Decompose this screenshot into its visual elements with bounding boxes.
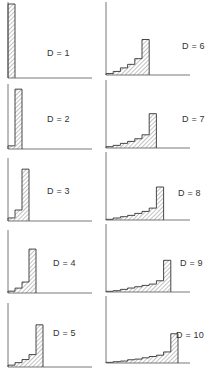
histogram-bar <box>142 358 149 363</box>
histogram-bar <box>142 40 149 76</box>
histogram-bar <box>164 352 171 363</box>
histogram-panel-8 <box>106 152 190 220</box>
histogram-bar <box>135 287 142 292</box>
histogram-bar <box>8 4 15 78</box>
histogram-bar <box>113 71 120 75</box>
histogram-bar <box>142 285 149 292</box>
histogram-bar <box>15 363 22 367</box>
panel-label-d7: D = 7 <box>182 114 205 124</box>
histogram-bar <box>135 139 142 148</box>
histogram-bar <box>135 59 142 75</box>
histogram-panel-7 <box>106 80 190 148</box>
histogram-bar <box>156 281 163 292</box>
histogram-bar <box>149 114 156 148</box>
histogram-bar <box>29 249 36 293</box>
histogram-bar <box>128 288 135 292</box>
histogram-bar <box>120 217 127 220</box>
panel-label-d5: D = 5 <box>53 328 76 338</box>
histogram-bar <box>22 360 29 367</box>
histogram-bar <box>149 284 156 292</box>
histogram-bar <box>29 355 36 367</box>
histogram-bar <box>142 135 149 148</box>
histogram-bar <box>15 288 22 293</box>
histogram-bar <box>142 211 149 220</box>
panel-label-d6: D = 6 <box>182 41 205 51</box>
histogram-bar <box>8 146 15 149</box>
histogram-bar <box>128 64 135 75</box>
histogram-panel-5 <box>8 303 92 367</box>
panel-label-d10: D = 10 <box>176 330 204 340</box>
histogram-bar <box>120 143 127 148</box>
histogram-bar <box>128 360 135 363</box>
histogram-bar <box>128 141 135 148</box>
panel-label-d9: D = 9 <box>180 258 203 268</box>
histogram-bar <box>149 208 156 220</box>
histogram-bar <box>135 213 142 220</box>
panel-label-d4: D = 4 <box>53 258 76 268</box>
panel-label-d2: D = 2 <box>47 114 70 124</box>
histogram-bar <box>156 355 163 363</box>
histogram-panel-9 <box>106 224 190 292</box>
histogram-panel-4 <box>8 230 92 293</box>
histogram-bar <box>8 218 15 221</box>
panel-label-d3: D = 3 <box>47 186 70 196</box>
histogram-bar <box>135 359 142 363</box>
histogram-grid <box>0 0 210 373</box>
histogram-bar <box>15 89 22 149</box>
histogram-bar <box>149 357 156 364</box>
histogram-bar <box>22 169 29 221</box>
histogram-bar <box>36 325 43 367</box>
histogram-bar <box>22 282 29 293</box>
panel-label-d1: D = 1 <box>47 48 70 58</box>
panel-label-d8: D = 8 <box>178 188 201 198</box>
histogram-bar <box>15 210 22 221</box>
histogram-bar <box>120 68 127 75</box>
histogram-bar <box>128 215 135 220</box>
histogram-bar <box>164 260 171 292</box>
histogram-panel-1 <box>8 2 92 78</box>
histogram-panel-6 <box>106 2 190 75</box>
histogram-bar <box>156 187 163 220</box>
